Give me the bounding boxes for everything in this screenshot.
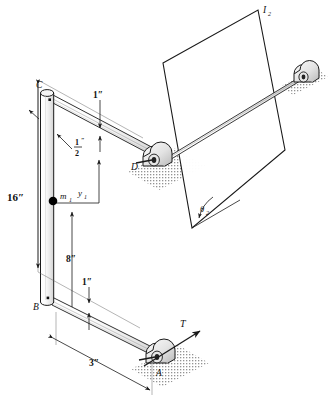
dimension-8-inch: 8″: [66, 212, 76, 307]
label-point-b: B: [33, 302, 39, 312]
label-inertia-2-subscript: 2: [268, 11, 271, 17]
bearing-right: [294, 61, 319, 83]
dimension-16-label: 16″: [7, 191, 24, 203]
engineering-diagram-figure: 16″ y 1 m 1 8″ 3″ 1″: [0, 0, 328, 408]
label-torque-t: T: [180, 318, 187, 329]
label-point-c: C: [36, 80, 43, 90]
label-y1: y: [77, 188, 82, 198]
dimension-half-inch: 1 ″ 2: [29, 110, 85, 158]
label-theta2: θ: [200, 204, 204, 214]
label-inertia-2: I: [262, 5, 267, 15]
dimension-half-numerator: 1: [75, 138, 79, 147]
lower-arm-rod: [52, 297, 162, 360]
projection-lines: [38, 80, 152, 395]
diagram-canvas: 16″ y 1 m 1 8″ 3″ 1″: [0, 0, 328, 408]
dimension-3-label: 3″: [89, 358, 99, 368]
label-inertia-2-group: I 2: [262, 5, 271, 17]
dimension-1-lower-label: 1″: [82, 277, 92, 287]
label-point-d: D: [130, 162, 138, 172]
label-theta2-subscript: 2: [206, 210, 209, 216]
label-m1-subscript: 1: [69, 197, 72, 203]
dimension-16-inch: 16″: [7, 84, 38, 268]
inclined-plate: [163, 10, 285, 228]
label-m1: m: [60, 191, 67, 201]
dimension-half-denominator: 2: [75, 149, 79, 158]
dimension-1-upper-label: 1″: [93, 90, 103, 100]
dimension-half-mark: ″: [81, 136, 85, 143]
label-y1-subscript: 1: [84, 194, 87, 200]
dimension-8-label: 8″: [66, 254, 76, 264]
label-point-a: A: [155, 368, 162, 378]
